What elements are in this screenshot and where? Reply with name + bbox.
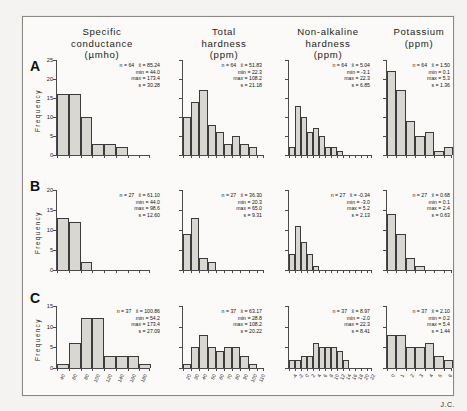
- y-tick: [179, 155, 183, 156]
- x-tick: [396, 270, 397, 273]
- stat-line-sd: s = 9.31: [188, 212, 262, 219]
- x-tick: [199, 270, 200, 273]
- stat-line-max: max = 22.3: [294, 321, 370, 328]
- x-tick: [361, 155, 362, 158]
- histogram-bar: [81, 117, 93, 155]
- y-tick: [53, 98, 57, 99]
- y-tick: [285, 136, 289, 137]
- stat-line-min: min = 54.2: [74, 315, 160, 322]
- stat-line-min: min = 22.3: [188, 69, 262, 76]
- histogram-bar: [199, 335, 207, 368]
- histogram-panel-A2: n = 64 x̄ = 51.83min = 22.3max = 108.2s …: [182, 60, 264, 155]
- y-tick: [53, 250, 57, 251]
- y-tick: [285, 155, 289, 156]
- artist-credit: J.C.: [441, 401, 455, 408]
- stat-line-n-mean: n = 37 x̄ = 100.86: [74, 308, 160, 315]
- x-tick: [444, 368, 445, 371]
- histogram-bar: [406, 258, 415, 270]
- x-axis-A2: [182, 155, 264, 156]
- x-tick: [451, 155, 452, 158]
- stat-line-n-mean: n = 64 x̄ = 85.24: [74, 62, 160, 69]
- column-units: (ppm): [276, 49, 380, 61]
- histogram-bar: [69, 222, 81, 270]
- stat-line-min: min = -3.0: [294, 199, 370, 206]
- histogram-bar: [224, 144, 232, 155]
- y-tick: [53, 347, 57, 348]
- y-tick: [53, 327, 57, 328]
- x-tick: [319, 368, 320, 371]
- stat-line-max: max = 5.4: [392, 321, 450, 328]
- x-tick: [139, 155, 140, 158]
- histogram-panel-A4: n = 64 x̄ = 1.50min = 0.1max = 5.3s = 1.…: [386, 60, 452, 155]
- y-tick-label: 15: [42, 303, 53, 309]
- x-tick: [425, 270, 426, 273]
- x-tick: [116, 270, 117, 273]
- x-tick: [396, 368, 397, 371]
- column-title-line2: conductance: [48, 38, 156, 50]
- stats-block-A1: n = 64 x̄ = 85.24min = 44.0max = 173.4s …: [74, 62, 160, 88]
- column-title-line1: Total: [178, 26, 270, 38]
- x-tick: [216, 368, 217, 371]
- y-tick: [179, 250, 183, 251]
- x-tick: [139, 270, 140, 273]
- x-tick: [149, 155, 150, 158]
- histogram-bar: [387, 214, 396, 270]
- x-tick: [301, 155, 302, 158]
- x-tick: [367, 270, 368, 273]
- x-tick: [371, 270, 372, 273]
- histogram-bar: [444, 147, 453, 155]
- column-units: (µmho): [48, 49, 156, 61]
- y-tick: [179, 327, 183, 328]
- x-tick: [116, 155, 117, 158]
- stat-line-n-mean: n = 37 x̄ = 2.10: [392, 308, 450, 315]
- x-tick: [343, 270, 344, 273]
- x-tick: [295, 270, 296, 273]
- x-tick: [313, 155, 314, 158]
- y-tick: [383, 210, 387, 211]
- histogram-bar: [425, 343, 434, 368]
- histogram-bar: [224, 347, 232, 368]
- x-tick: [240, 155, 241, 158]
- x-tick: [415, 270, 416, 273]
- stats-block-A2: n = 64 x̄ = 51.83min = 22.3max = 108.2s …: [188, 62, 262, 88]
- x-tick: [232, 368, 233, 371]
- x-tick: [301, 270, 302, 273]
- histogram-bar: [406, 347, 415, 368]
- y-tick-label: 25: [42, 57, 53, 63]
- x-tick: [69, 270, 70, 273]
- x-tick: [371, 368, 372, 371]
- y-tick: [179, 79, 183, 80]
- x-tick: [249, 270, 250, 273]
- stats-block-B2: n = 27 x̄ = 36.30min = 20.3max = 65.0s =…: [188, 192, 262, 218]
- x-tick: [325, 368, 326, 371]
- x-tick: [325, 270, 326, 273]
- y-tick: [285, 210, 289, 211]
- y-tick: [285, 117, 289, 118]
- y-tick: [53, 210, 57, 211]
- x-tick: [224, 368, 225, 371]
- y-axis-title-C1: Frequency: [34, 318, 41, 361]
- x-tick: [289, 270, 290, 273]
- stat-line-min: min = 44.0: [74, 69, 160, 76]
- x-tick: [104, 155, 105, 158]
- y-axis-C3: [288, 306, 289, 368]
- x-tick: [104, 270, 105, 273]
- stat-line-sd: s = 27.09: [74, 328, 160, 335]
- x-tick: [434, 368, 435, 371]
- y-tick: [179, 306, 183, 307]
- x-tick: [263, 155, 264, 158]
- x-tick: [387, 368, 388, 371]
- histogram-panel-C1: 051015Frequency406080100120140160180n = …: [56, 306, 150, 368]
- y-tick: [53, 79, 57, 80]
- y-tick: [285, 230, 289, 231]
- histogram-bar: [57, 94, 69, 155]
- y-tick: [53, 60, 57, 61]
- y-tick: [383, 306, 387, 307]
- stat-line-max: max = 22.3: [294, 75, 370, 82]
- histogram-bar: [183, 117, 191, 155]
- y-tick-label: 5: [42, 344, 53, 350]
- x-tick: [92, 155, 93, 158]
- histogram-bar: [57, 364, 69, 368]
- x-tick: [355, 368, 356, 371]
- histogram-panel-C2: 2030405060708090100110n = 37 x̄ = 63.17m…: [182, 306, 264, 368]
